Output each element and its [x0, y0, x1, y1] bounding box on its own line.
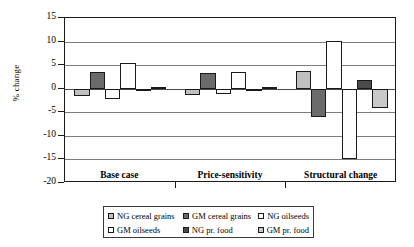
y-axis-tick-label: -20: [4, 177, 56, 187]
y-axis-tick-label: -15: [4, 153, 56, 163]
bar: [216, 89, 231, 95]
y-axis-tick-label: 5: [4, 59, 56, 69]
bar: [357, 80, 372, 88]
gridline: [65, 42, 395, 43]
x-axis-group-label: Base case: [64, 170, 175, 180]
bar: [200, 73, 215, 89]
bar: [246, 89, 261, 91]
y-axis-tick-label: 10: [4, 36, 56, 46]
legend-label: NG oilseeds: [267, 212, 309, 221]
x-axis-group-label: Structural change: [285, 170, 396, 180]
x-axis-group-divider: [175, 182, 176, 188]
y-axis-tick-mark: [58, 182, 64, 183]
bar: [136, 89, 151, 91]
plot-area: [64, 17, 396, 182]
legend-label: GM cereal grains: [192, 212, 251, 221]
chart-legend: NG cereal grains GM cereal grains NG oil…: [103, 206, 314, 238]
y-axis-tick-label: 15: [4, 12, 56, 22]
legend-row: NG cereal grains GM cereal grains NG oil…: [108, 209, 309, 223]
y-axis-tick-label: -5: [4, 106, 56, 116]
gridline: [65, 65, 395, 66]
legend-swatch-gm-cereal-grains: [183, 213, 189, 219]
bar: [296, 71, 311, 88]
y-axis-tick-label: 0: [4, 83, 56, 93]
bar: [326, 41, 341, 89]
bar: [105, 89, 120, 99]
x-axis-group-label: Price-sensitivity: [175, 170, 286, 180]
legend-item: NG cereal grains: [108, 212, 183, 221]
bar: [231, 72, 246, 89]
legend-label: GM oilseeds: [117, 226, 160, 235]
legend-swatch-ng-cereal-grains: [108, 213, 114, 219]
bar: [185, 89, 200, 96]
bar: [120, 63, 135, 89]
legend-swatch-gm-pr-food: [258, 227, 264, 233]
legend-item: NG oilseeds: [258, 212, 309, 221]
gridline: [65, 159, 395, 160]
legend-swatch-ng-oilseeds: [258, 213, 264, 219]
y-axis: 151050-5-10-15-20: [0, 0, 64, 247]
legend-label: GM pr. food: [267, 226, 309, 235]
bar: [74, 89, 89, 96]
bar: [262, 87, 277, 89]
legend-item: GM cereal grains: [183, 212, 258, 221]
bar: [90, 72, 105, 89]
legend-item: GM oilseeds: [108, 226, 183, 235]
bar: [342, 89, 357, 160]
legend-label: NG cereal grains: [117, 212, 175, 221]
legend-item: GM pr. food: [258, 226, 309, 235]
legend-swatch-gm-oilseeds: [108, 227, 114, 233]
legend-swatch-ng-pr-food: [183, 227, 189, 233]
bar: [372, 89, 387, 108]
chart-root: % change 151050-5-10-15-20 Base casePric…: [0, 0, 414, 247]
legend-row: GM oilseeds NG pr. food GM pr. food: [108, 223, 309, 237]
legend-label: NG pr. food: [192, 226, 233, 235]
legend-item: NG pr. food: [183, 226, 258, 235]
bar: [151, 87, 166, 89]
x-axis-group-divider: [285, 182, 286, 188]
y-axis-tick-label: -10: [4, 130, 56, 140]
bar: [311, 89, 326, 117]
